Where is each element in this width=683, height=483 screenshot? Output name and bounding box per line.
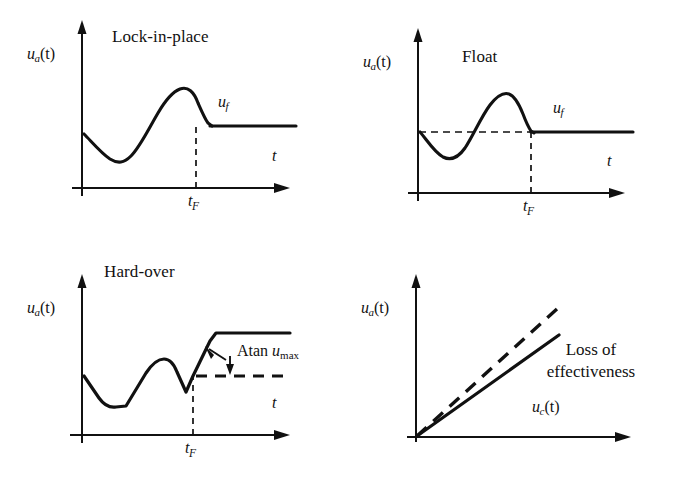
- curve-label-main: u: [218, 93, 226, 110]
- y-axis-label-main: u: [27, 299, 35, 316]
- y-axis-label-tail: (t): [376, 53, 391, 70]
- y-axis-label-main: u: [363, 53, 371, 70]
- tick-label-sub: F: [192, 200, 199, 212]
- annotation-atan-umax: Atan umax: [237, 343, 299, 362]
- caption-line-2: effectiveness: [521, 361, 661, 383]
- panel-float-plot: [341, 0, 682, 241]
- curve-label-uf: uf: [553, 100, 564, 119]
- tick-label-tf: tF: [188, 193, 199, 212]
- x-axis-label-tail: (t): [544, 398, 559, 415]
- x-axis-arrowhead: [274, 430, 290, 440]
- annotation-text: Atan: [237, 342, 272, 359]
- y-axis-arrowhead: [412, 274, 421, 288]
- y-axis-label: ua(t): [361, 300, 389, 319]
- y-axis-label-tail: (t): [40, 45, 55, 62]
- tick-label-sub: F: [189, 447, 196, 459]
- actuator-fault-figure: Lock-in-place ua(t) t tF uf Float ua(t): [0, 0, 683, 483]
- curve-label-sub: f: [561, 106, 564, 118]
- curve-label-main: u: [553, 99, 561, 116]
- actuator-output-curve: [420, 93, 534, 158]
- actuator-output-curve: [84, 88, 212, 162]
- panel-lock-in-place: Lock-in-place ua(t) t tF uf: [0, 0, 341, 241]
- x-axis-label-main: u: [532, 398, 540, 415]
- caption-loss-of-effectiveness: Loss of effectiveness: [521, 339, 661, 383]
- y-axis-label-tail: (t): [374, 299, 389, 316]
- y-axis-label: ua(t): [27, 46, 55, 65]
- tick-label-sub: F: [527, 205, 534, 217]
- annotation-sub: max: [280, 349, 299, 361]
- annotation-var: u: [272, 342, 280, 359]
- x-axis-arrowhead: [609, 188, 625, 198]
- panel-title: Float: [462, 48, 497, 66]
- y-axis-label-main: u: [361, 299, 369, 316]
- panel-loss-of-effectiveness: ua(t) uc(t) Loss of effectiveness: [341, 242, 682, 483]
- x-axis-label: t: [272, 148, 276, 165]
- x-axis-arrowhead: [274, 183, 290, 193]
- level-indicator-arrowhead: [226, 364, 234, 375]
- y-axis-label-main: u: [27, 45, 35, 62]
- x-axis-label: t: [272, 395, 276, 412]
- y-axis-label: ua(t): [363, 54, 391, 73]
- curve-label-sub: f: [226, 100, 229, 112]
- caption-line-1: Loss of: [521, 339, 661, 361]
- x-axis-arrowhead: [615, 432, 631, 442]
- y-axis-arrowhead: [414, 28, 423, 42]
- tick-label-tf: tF: [523, 198, 534, 217]
- x-axis-label: t: [607, 153, 611, 170]
- panel-float: Float ua(t) t tF uf: [341, 0, 682, 241]
- x-axis-label: uc(t): [532, 399, 560, 418]
- panel-title: Lock-in-place: [112, 28, 209, 46]
- curve-label-uf: uf: [218, 94, 229, 113]
- slope-leader-arrowhead: [205, 346, 214, 359]
- y-axis-arrowhead: [78, 20, 87, 34]
- panel-title: Hard-over: [104, 263, 175, 281]
- panel-hard-over: Hard-over ua(t) t tF Atan umax: [0, 242, 341, 483]
- tick-label-tf: tF: [185, 440, 196, 459]
- y-axis-label: ua(t): [27, 300, 55, 319]
- y-axis-arrowhead: [78, 274, 87, 288]
- y-axis-label-tail: (t): [40, 299, 55, 316]
